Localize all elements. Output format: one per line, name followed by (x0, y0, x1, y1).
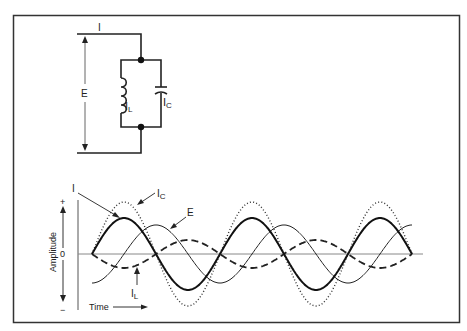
time-arrow-icon (141, 305, 148, 310)
bottom-wire (77, 127, 141, 153)
diagram-canvas: I E IL IC + 0 − Amplitude Time I IC (0, 0, 467, 331)
amplitude-up-arrow-icon (60, 206, 66, 213)
label-inductor-current: IL (125, 100, 133, 114)
y-plus-label: + (60, 197, 65, 207)
series-label-IL: IL (131, 288, 139, 301)
parallel-lc-circuit (77, 34, 167, 153)
top-wire (77, 34, 141, 60)
callout-arrow-E-icon (170, 223, 177, 229)
callout-arrow-IC-icon (137, 199, 144, 205)
y-zero-label: 0 (60, 249, 65, 259)
series-label-IC: IC (157, 188, 166, 201)
label-capacitor-current: IC (163, 96, 172, 110)
label-voltage: E (81, 88, 88, 99)
callout-arrow-I-icon (112, 212, 120, 218)
y-minus-label: − (60, 305, 65, 315)
y-axis-title: Amplitude (48, 232, 58, 272)
waveform-graph: + 0 − Amplitude Time I IC E IL (48, 183, 423, 315)
junction-node-top (138, 57, 144, 63)
arrowhead-up-icon (82, 36, 88, 43)
callout-arrow-IL-icon (134, 267, 140, 274)
frame-border (14, 16, 460, 323)
series-label-I: I (72, 183, 75, 194)
label-total-current: I (98, 22, 101, 33)
series-label-E: E (187, 207, 194, 218)
arrowhead-down-icon (82, 144, 88, 151)
amplitude-down-arrow-icon (60, 295, 66, 302)
x-axis-title: Time (89, 302, 109, 312)
junction-node-bottom (138, 124, 144, 130)
